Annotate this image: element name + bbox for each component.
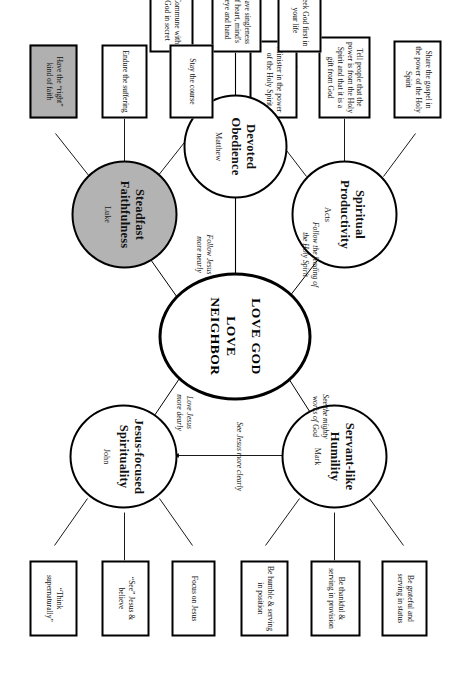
branch-node-steadfast-faithfulness[interactable]: Steadfast Faithfulness Luke: [71, 160, 177, 268]
branch-title: Spiritual Productivity: [336, 162, 366, 266]
branch-gospel: Matthew: [213, 131, 222, 160]
detail-box[interactable]: Tell people that the power is from the H…: [318, 36, 370, 118]
detail-box-text: Be grateful and serving in status: [394, 565, 413, 631]
detail-box-text: Stay the course: [186, 58, 196, 104]
detail-box[interactable]: Be grateful and serving in status: [381, 560, 427, 636]
detail-box-text: Endure the suffering: [119, 50, 129, 112]
detail-box-text: Tell people that the power is from the H…: [325, 41, 364, 113]
diagram-rotated-layer: LOVE GOD LOVE NEIGHBOR Spiritual Product…: [0, 0, 469, 684]
detail-box-text: Be thankful & serving in provision: [325, 565, 344, 631]
edge-label-follow-leading-holy-spirit: Follow the leading of the Holy Spirit: [299, 212, 319, 296]
edge-label-follow-jesus-more-nearly: Follow Jesus more nearly: [193, 216, 213, 292]
detail-box-text: Share the gospel in the power of the Hol…: [402, 45, 431, 113]
branch-title: Devoted Obedience: [227, 96, 257, 196]
detail-box-text: Have the “right” kind of faith: [43, 49, 62, 113]
branch-title: Jesus-focused Spirituality: [115, 406, 145, 506]
branch-title: Steadfast Faithfulness: [116, 162, 146, 266]
branch-node-jesus-focused-spirituality[interactable]: Jesus-focused Spirituality John: [69, 404, 177, 508]
detail-box-text: Minister in the power of the Holy Spirit: [263, 45, 282, 113]
detail-box-text: Have singleness of heart, mind's eye and…: [221, 0, 250, 47]
detail-box-text: Commune with God in secret: [161, 0, 180, 47]
center-node-line2: LOVE NEIGHBOR: [206, 275, 238, 397]
branch-node-servant-like-humility[interactable]: Servant-like Humility Mark: [281, 404, 387, 508]
detail-box[interactable]: Stay the course: [169, 44, 213, 118]
branch-title: Servant-like Humility: [326, 406, 356, 506]
detail-box[interactable]: “Think supernaturally”: [29, 560, 77, 636]
detail-box-text: “Think supernaturally”: [43, 565, 62, 631]
detail-box[interactable]: Be humble & serving in position: [240, 560, 288, 636]
detail-box[interactable]: Endure the suffering: [101, 44, 147, 118]
edge-label-see-mighty-works-of-god: See the mighty works of God: [309, 376, 329, 456]
edge-label-love-jesus-more-dearly: Love Jesus more dearly: [173, 374, 193, 450]
detail-box[interactable]: Share the gospel in the power of the Hol…: [393, 40, 441, 118]
detail-box-text: Be humble & serving in position: [254, 565, 273, 631]
detail-box[interactable]: Be thankful & serving in provision: [310, 560, 360, 636]
detail-box[interactable]: “See” Jesus & believe: [101, 560, 149, 636]
detail-box-text: Focus on Jesus: [188, 575, 198, 621]
center-node-line1: LOVE GOD: [247, 298, 263, 374]
detail-box[interactable]: Have the “right” kind of faith: [29, 44, 77, 118]
detail-box-text: Seek God first in your life: [289, 0, 308, 47]
detail-box[interactable]: Seek God first in your life: [277, 0, 321, 52]
detail-box[interactable]: Have singleness of heart, mind's eye and…: [211, 0, 261, 52]
edge-label-see-jesus-more-clearly: See Jesus more clearly: [233, 398, 243, 514]
diagram-canvas: LOVE GOD LOVE NEIGHBOR Spiritual Product…: [0, 0, 469, 684]
branch-gospel: John: [101, 448, 110, 463]
detail-box-text: “See” Jesus & believe: [115, 565, 134, 631]
branch-gospel: Acts: [322, 206, 331, 221]
detail-box[interactable]: Focus on Jesus: [171, 560, 215, 636]
branch-gospel: Luke: [102, 206, 111, 223]
